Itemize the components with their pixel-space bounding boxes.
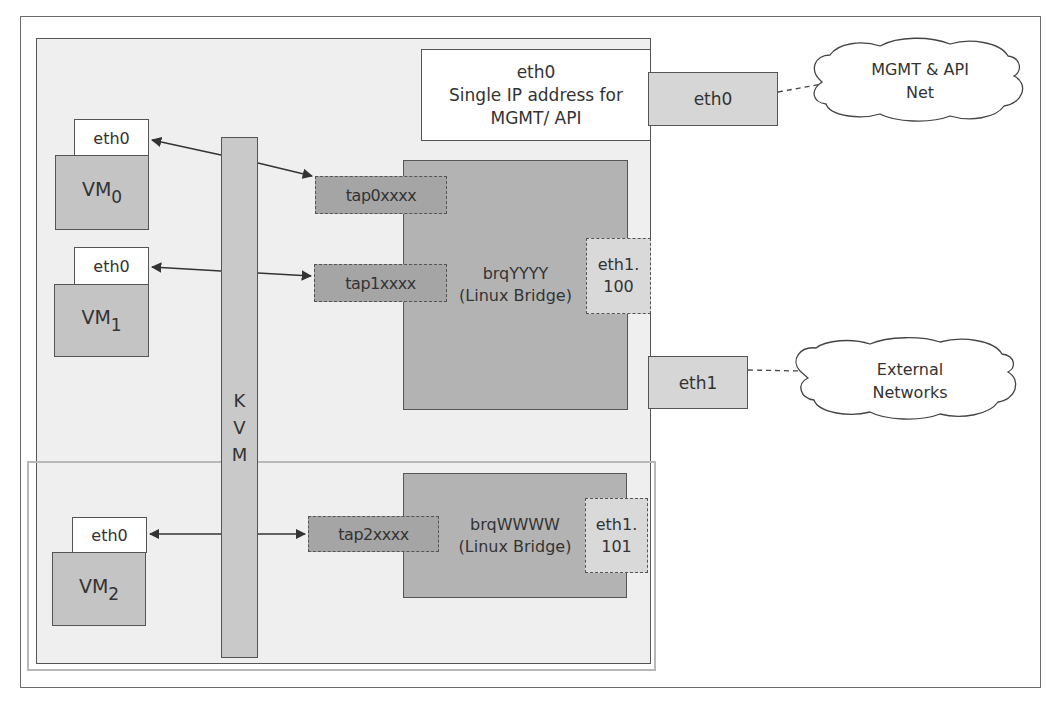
network-mgmt-line1: MGMT & API (871, 58, 969, 81)
link-vm1-tap1 (152, 267, 311, 276)
link-vm0-tap0 (152, 140, 312, 176)
network-external-label: External Networks (820, 348, 1000, 414)
network-external-line1: External (877, 358, 943, 381)
network-mgmt-api-label: MGMT & API Net (830, 48, 1010, 114)
network-external-line2: Networks (872, 381, 947, 404)
network-mgmt-line2: Net (906, 81, 934, 104)
link-eth1-external-net (748, 370, 800, 371)
